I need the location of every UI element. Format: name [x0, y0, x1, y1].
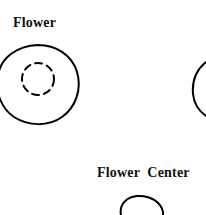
label-flower-center: Flower Center: [97, 166, 190, 180]
flower-outline: [0, 45, 79, 124]
figure-vector-layer: [0, 0, 206, 215]
bottom-cropped-center-circle: [121, 196, 163, 215]
flower-center-dashed-circle: [22, 63, 54, 95]
right-cropped-flower-arc: [193, 62, 206, 116]
label-flower: Flower: [13, 16, 56, 30]
figure-panel: Flower Flower Center: [0, 0, 206, 215]
